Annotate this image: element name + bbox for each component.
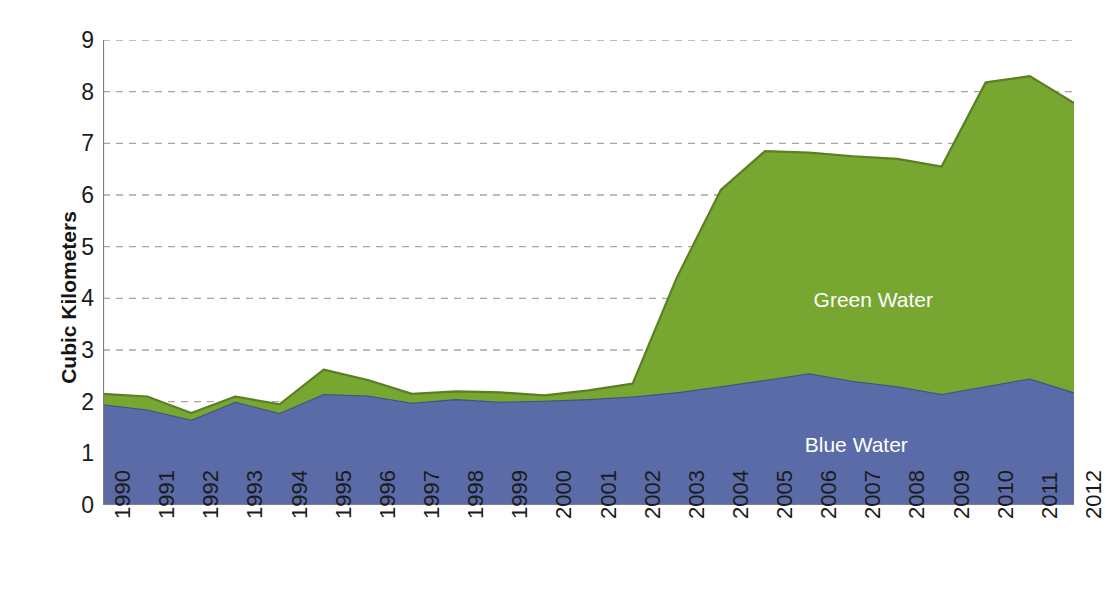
y-tick-label-2: 2: [60, 390, 94, 413]
green-water-label: Green Water: [814, 288, 933, 312]
y-tick-label-4: 4: [60, 287, 94, 310]
y-tick-label-1: 1: [60, 442, 94, 465]
y-tick-label-6: 6: [60, 184, 94, 207]
y-tick-label-9: 9: [60, 29, 94, 52]
y-tick-label-0: 0: [60, 494, 94, 517]
x-tick-label-2012: 2012: [1083, 470, 1105, 519]
blue-water-label: Blue Water: [805, 433, 908, 457]
plot-area: [103, 40, 1074, 505]
plot-svg: [103, 40, 1074, 505]
series-area-green-water: [103, 76, 1074, 420]
y-tick-label-3: 3: [60, 339, 94, 362]
y-tick-label-5: 5: [60, 235, 94, 258]
y-tick-label-7: 7: [60, 132, 94, 155]
y-tick-label-8: 8: [60, 80, 94, 103]
y-axis-tick-labels: 0123456789: [46, 0, 94, 595]
